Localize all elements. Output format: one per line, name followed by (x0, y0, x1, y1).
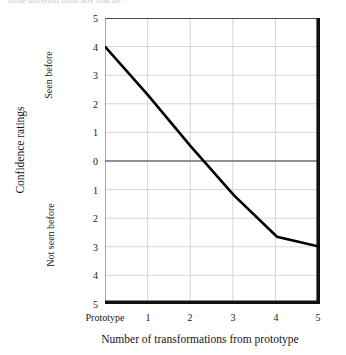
y-axis-region-label-not-seen-before: Not seen before (45, 180, 56, 290)
y-tick-label: 5 (72, 13, 98, 24)
y-axis-title: Confidence ratings (14, 90, 26, 210)
plot-area (105, 18, 320, 304)
x-tick-label-4: 4 (274, 312, 279, 323)
y-tick-label: 4 (72, 41, 98, 52)
y-tick-label: 3 (72, 241, 98, 252)
x-tick-label-2: 2 (188, 312, 193, 323)
y-axis-tick-labels: 5 4 3 2 1 0 1 2 3 4 5 (72, 0, 98, 355)
y-tick-label: 2 (72, 98, 98, 109)
y-tick-label: 3 (72, 70, 98, 81)
y-tick-label: 1 (72, 184, 98, 195)
x-tick-label-5: 5 (316, 312, 321, 323)
data-series-line (105, 47, 320, 247)
x-axis-title: Number of transformations from prototype (55, 333, 345, 345)
x-tick-label-3: 3 (231, 312, 236, 323)
y-tick-label: 1 (72, 127, 98, 138)
x-tick-label-prototype: Prototype (86, 312, 125, 323)
y-tick-label: 5 (72, 299, 98, 310)
y-tick-label: 0 (72, 156, 98, 167)
figure-confidence-ratings: Confidence ratings Seen before Not seen … (0, 0, 346, 355)
y-tick-label: 4 (72, 270, 98, 281)
y-axis-region-label-seen-before: Seen before (43, 32, 54, 118)
y-tick-label: 2 (72, 213, 98, 224)
x-tick-label-1: 1 (146, 312, 151, 323)
plot-svg (105, 18, 320, 304)
